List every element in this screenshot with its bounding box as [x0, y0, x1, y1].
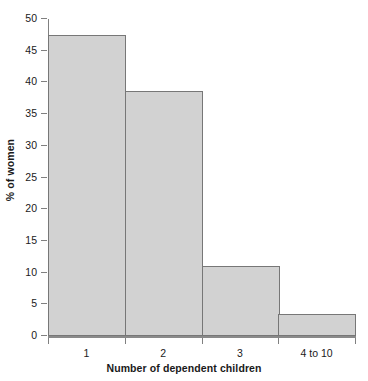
x-axis-tick-label: 3: [202, 347, 279, 360]
y-axis-tick-label: 0: [0, 329, 37, 342]
y-axis-tick-label: 40: [0, 75, 37, 88]
y-axis-tick-label: 45: [0, 44, 37, 57]
y-axis-tick-mark: [41, 303, 47, 304]
y-axis-tick-mark: [41, 81, 47, 82]
y-axis-tick-label: 15: [0, 234, 37, 247]
y-axis-tick-mark: [41, 335, 47, 336]
y-axis-tick-mark: [41, 145, 47, 146]
x-axis-tick-mark: [355, 338, 356, 344]
y-axis-tick-label: 5: [0, 297, 37, 310]
y-axis-tick-label: 30: [0, 139, 37, 152]
x-axis-tick-label: 4 to 10: [278, 347, 355, 360]
x-axis-tick-mark: [202, 338, 203, 344]
bar: [278, 314, 356, 336]
y-axis-tick-mark: [41, 240, 47, 241]
bar-chart: % of women 051015202530354045501234 to 1…: [0, 0, 368, 381]
x-axis-tick-mark: [278, 338, 279, 344]
y-axis-tick-mark: [41, 208, 47, 209]
y-axis-tick-mark: [41, 113, 47, 114]
x-axis-tick-label: 1: [48, 347, 125, 360]
x-axis-tick-mark: [125, 338, 126, 344]
y-axis-tick-mark: [41, 272, 47, 273]
y-axis-tick-mark: [41, 18, 47, 19]
y-axis-tick-label: 20: [0, 202, 37, 215]
y-axis-tick-label: 10: [0, 266, 37, 279]
x-axis-tick-label: 2: [125, 347, 202, 360]
y-axis-tick-label: 25: [0, 171, 37, 184]
y-axis-tick-label: 35: [0, 107, 37, 120]
y-axis-tick-mark: [41, 50, 47, 51]
bar: [48, 35, 126, 336]
y-axis-tick-label: 50: [0, 12, 37, 25]
x-axis-title: Number of dependent children: [0, 362, 368, 374]
y-axis-tick-mark: [41, 177, 47, 178]
x-axis-tick-mark: [48, 338, 49, 344]
bar: [202, 266, 280, 336]
bar: [125, 91, 203, 336]
